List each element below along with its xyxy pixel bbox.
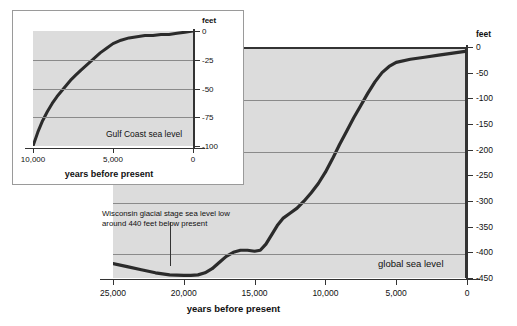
main-y-tick (467, 252, 473, 253)
inset-series-label: Gulf Coast sea level (106, 129, 182, 139)
inset-y-tick-label: -25 (202, 55, 214, 64)
main-y-tick-label: -200 (476, 145, 493, 155)
main-y-tick-label: -150 (476, 119, 493, 129)
main-y-tick (467, 98, 473, 99)
inset-y-tick-label: -75 (202, 113, 214, 122)
main-y-axis (466, 45, 468, 280)
main-x-tick-label: 20,000 (171, 288, 197, 298)
inset-x-tick (33, 148, 34, 153)
main-y-tick (467, 175, 473, 176)
main-series-label: global sea level (378, 258, 444, 269)
main-x-axis (100, 279, 480, 280)
main-x-tick-label: 10,000 (312, 288, 338, 298)
inset-x-tick-label: 0 (191, 155, 195, 164)
main-y-tick-label: -450 (476, 273, 493, 283)
main-y-tick-label: -50 (476, 68, 488, 78)
main-x-tick (113, 279, 114, 285)
annotation-leader-line (170, 222, 171, 266)
inset-y-tick (195, 31, 200, 32)
inset-x-tick (193, 148, 194, 153)
main-y-tick (467, 124, 473, 125)
inset-x-tick (113, 148, 114, 153)
main-y-tick (467, 150, 473, 151)
inset-y-tick (195, 60, 200, 61)
main-x-tick (325, 279, 326, 285)
main-y-tick-label: -350 (476, 222, 493, 232)
main-y-tick-label: -100 (476, 93, 493, 103)
inset-x-tick-label: 10,000 (21, 155, 45, 164)
gridline-main (113, 203, 465, 204)
main-y-tick (467, 201, 473, 202)
main-x-tick-label: 5,000 (386, 288, 407, 298)
inset-y-tick (195, 146, 200, 147)
main-y-tick (467, 47, 473, 48)
inset-y-tick-label: -100 (202, 142, 218, 151)
annotation-line-1: Wisconsin glacial stage sea level low (102, 209, 252, 219)
gridline-inset (33, 117, 193, 118)
main-x-tick (467, 279, 468, 285)
main-y-tick (467, 227, 473, 228)
gulf-coast-sea-level-inset: feet 0-25-50-75-100 10,0005,0000 years b… (12, 10, 244, 185)
main-x-tick (396, 279, 397, 285)
main-x-tick (184, 279, 185, 285)
main-y-tick-label: -300 (476, 196, 493, 206)
main-y-tick (467, 73, 473, 74)
main-y-tick-label: 0 (476, 42, 481, 52)
wisconsin-low-annotation: Wisconsin glacial stage sea level low ar… (102, 209, 252, 229)
main-x-tick (255, 279, 256, 285)
main-x-tick-label: 15,000 (242, 288, 268, 298)
inset-y-axis-unit: feet (202, 16, 216, 25)
figure-root: feet 0-50-100-150-200-250-300-350-400-45… (0, 0, 517, 326)
gridline-inset (33, 60, 193, 61)
inset-y-tick (195, 89, 200, 90)
main-y-axis-unit: feet (476, 29, 491, 39)
main-x-axis-title: years before present (0, 303, 467, 314)
gridline-inset (33, 89, 193, 90)
main-x-tick-label: 0 (465, 288, 470, 298)
inset-y-tick-label: -50 (202, 84, 214, 93)
inset-x-axis (25, 148, 205, 149)
inset-x-axis-title: years before present (13, 169, 205, 179)
inset-y-tick (195, 117, 200, 118)
annotation-line-2: around 440 feet below present (102, 219, 252, 229)
inset-x-tick-label: 5,000 (103, 155, 123, 164)
inset-y-tick-label: 0 (202, 27, 206, 36)
gridline-main (113, 254, 465, 255)
main-y-tick-label: -250 (476, 170, 493, 180)
main-x-tick-label: 25,000 (100, 288, 126, 298)
main-y-tick-label: -400 (476, 247, 493, 257)
